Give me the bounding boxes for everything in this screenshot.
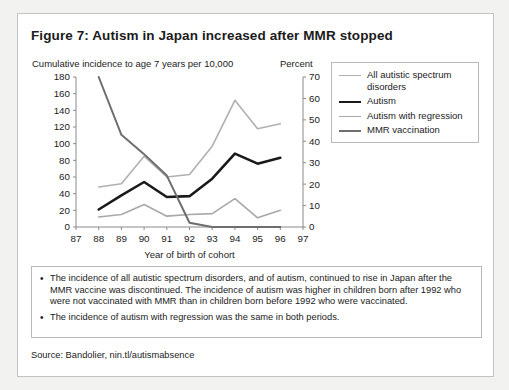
legend-item-label: Autism with regression (367, 110, 463, 122)
svg-text:70: 70 (309, 71, 320, 82)
legend-item: Autism (339, 95, 472, 107)
svg-text:0: 0 (65, 221, 71, 232)
bullet-icon: • (40, 312, 50, 324)
svg-text:95: 95 (252, 233, 263, 244)
legend-swatch-icon (339, 101, 361, 103)
svg-text:20: 20 (309, 179, 320, 190)
figure-notes: • The incidence of all autistic spectrum… (31, 266, 482, 338)
chart-x-axis-title: Year of birth of cohort (144, 249, 235, 259)
legend-item-label: MMR vaccination (367, 124, 440, 136)
chart-series (99, 77, 281, 227)
svg-text:94: 94 (229, 233, 240, 244)
svg-text:40: 40 (59, 188, 70, 199)
svg-text:60: 60 (59, 171, 70, 182)
svg-text:Year of birth of cohort: Year of birth of cohort (144, 249, 235, 259)
legend-item: Autism with regression (339, 110, 472, 122)
svg-text:88: 88 (93, 233, 104, 244)
svg-text:91: 91 (161, 233, 172, 244)
legend-swatch-icon (339, 75, 361, 76)
svg-text:90: 90 (139, 233, 150, 244)
figure-title: Figure 7: Autism in Japan increased afte… (31, 28, 393, 43)
svg-text:160: 160 (54, 88, 71, 99)
svg-text:120: 120 (54, 121, 71, 132)
note-list-item: • The incidence of autism with regressio… (40, 312, 473, 324)
legend-swatch-icon (339, 130, 361, 132)
svg-text:92: 92 (184, 233, 195, 244)
legend-swatch-icon (339, 116, 361, 117)
svg-text:20: 20 (59, 205, 70, 216)
svg-text:80: 80 (59, 155, 70, 166)
svg-text:96: 96 (275, 233, 286, 244)
note-text: The incidence of all autistic spectrum d… (50, 273, 473, 308)
left-axis-caption: Cumulative incidence to age 7 years per … (32, 58, 233, 69)
note-text: The incidence of autism with regression … (50, 312, 473, 324)
right-axis-caption: Percent (280, 58, 313, 69)
chart-legend: All autistic spectrum disorders Autism A… (331, 62, 479, 143)
legend-item: All autistic spectrum disorders (339, 69, 472, 92)
svg-text:10: 10 (309, 200, 320, 211)
note-list-item: • The incidence of all autistic spectrum… (40, 273, 473, 308)
svg-text:89: 89 (116, 233, 127, 244)
legend-item-label: Autism (367, 95, 396, 107)
svg-text:93: 93 (207, 233, 218, 244)
svg-text:87: 87 (71, 233, 82, 244)
svg-text:0: 0 (309, 221, 315, 232)
svg-text:40: 40 (309, 136, 320, 147)
legend-item: MMR vaccination (339, 124, 472, 136)
svg-text:140: 140 (54, 105, 71, 116)
svg-text:180: 180 (54, 71, 71, 82)
bullet-icon: • (40, 273, 50, 308)
svg-text:30: 30 (309, 157, 320, 168)
svg-text:97: 97 (298, 233, 309, 244)
legend-item-label: All autistic spectrum disorders (367, 69, 472, 92)
svg-text:60: 60 (309, 93, 320, 104)
svg-text:50: 50 (309, 114, 320, 125)
figure-card: Figure 7: Autism in Japan increased afte… (17, 13, 494, 377)
svg-text:100: 100 (54, 138, 71, 149)
source-caption: Source: Bandolier, nin.tl/autismabsence (31, 350, 194, 360)
